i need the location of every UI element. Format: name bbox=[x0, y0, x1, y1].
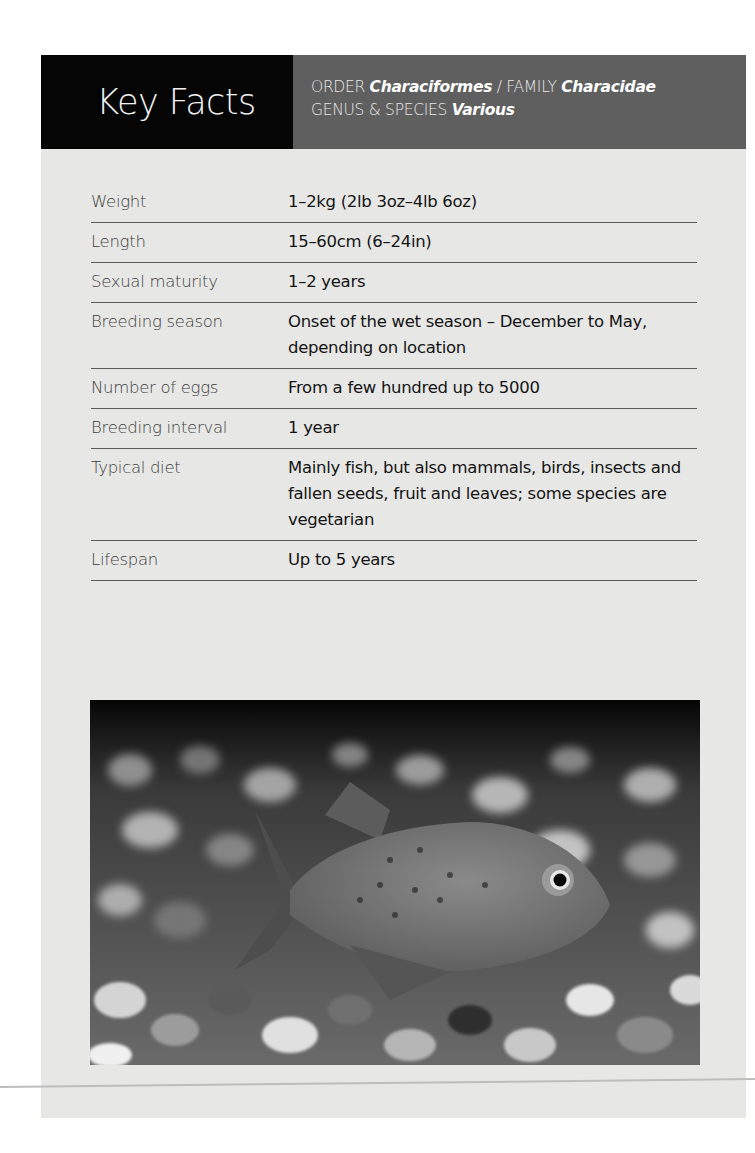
fact-row-weight: Weight 1–2kg (2lb 3oz–4lb 6oz) bbox=[91, 183, 697, 223]
taxonomy-block: ORDER Characiformes / FAMILY Characidae … bbox=[293, 55, 746, 149]
family-label: FAMILY bbox=[506, 78, 556, 96]
fish-photo bbox=[90, 700, 700, 1065]
fact-value: 15–60cm (6–24in) bbox=[288, 229, 697, 255]
fact-value: Onset of the wet season – December to Ma… bbox=[288, 309, 697, 361]
genus-label: GENUS & SPECIES bbox=[311, 101, 447, 119]
taxonomy-line-1: ORDER Characiformes / FAMILY Characidae bbox=[311, 76, 746, 99]
fact-label: Typical diet bbox=[91, 455, 288, 533]
page-title: Key Facts bbox=[41, 55, 293, 149]
order-value: Characiformes bbox=[370, 78, 493, 96]
facts-table: Weight 1–2kg (2lb 3oz–4lb 6oz) Length 15… bbox=[91, 183, 697, 581]
fact-row-breeding-interval: Breeding interval 1 year bbox=[91, 409, 697, 449]
fact-label: Sexual maturity bbox=[91, 269, 288, 295]
fact-row-length: Length 15–60cm (6–24in) bbox=[91, 223, 697, 263]
fact-value: 1–2kg (2lb 3oz–4lb 6oz) bbox=[288, 189, 697, 215]
fact-label: Lifespan bbox=[91, 547, 288, 573]
fact-label: Length bbox=[91, 229, 288, 255]
taxonomy-separator: / bbox=[492, 78, 506, 96]
fact-label: Breeding season bbox=[91, 309, 288, 361]
genus-value: Various bbox=[452, 101, 515, 119]
fact-row-number-of-eggs: Number of eggs From a few hundred up to … bbox=[91, 369, 697, 409]
fact-row-typical-diet: Typical diet Mainly fish, but also mamma… bbox=[91, 449, 697, 541]
fact-value: 1 year bbox=[288, 415, 697, 441]
fact-row-sexual-maturity: Sexual maturity 1–2 years bbox=[91, 263, 697, 303]
fact-row-lifespan: Lifespan Up to 5 years bbox=[91, 541, 697, 581]
fact-value: From a few hundred up to 5000 bbox=[288, 375, 697, 401]
fact-value: Mainly fish, but also mammals, birds, in… bbox=[288, 455, 697, 533]
fact-value: 1–2 years bbox=[288, 269, 697, 295]
fact-value: Up to 5 years bbox=[288, 547, 697, 573]
key-facts-header: Key Facts ORDER Characiformes / FAMILY C… bbox=[41, 55, 746, 149]
taxonomy-line-2: GENUS & SPECIES Various bbox=[311, 99, 746, 122]
fact-row-breeding-season: Breeding season Onset of the wet season … bbox=[91, 303, 697, 369]
fact-label: Breeding interval bbox=[91, 415, 288, 441]
fact-label: Weight bbox=[91, 189, 288, 215]
order-label: ORDER bbox=[311, 78, 365, 96]
fact-label: Number of eggs bbox=[91, 375, 288, 401]
piranha-image bbox=[90, 700, 700, 1065]
family-value: Characidae bbox=[561, 78, 656, 96]
